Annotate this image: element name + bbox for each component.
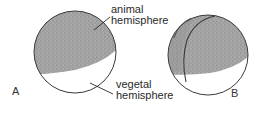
- egg-b: [160, 10, 255, 95]
- panel-label-b: B: [231, 88, 238, 99]
- animal-label-line2: hemisphere: [111, 15, 168, 26]
- animal-hemisphere-label: animal hemisphere: [111, 4, 168, 26]
- panel-label-a: A: [12, 86, 19, 97]
- vegetal-label-line2: hemisphere: [116, 90, 173, 101]
- vegetal-hemisphere-label: vegetal hemisphere: [116, 79, 173, 101]
